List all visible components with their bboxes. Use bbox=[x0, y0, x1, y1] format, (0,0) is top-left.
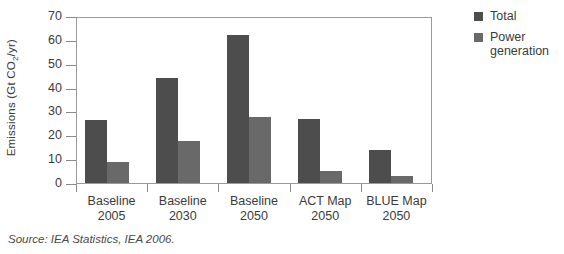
chart-legend: TotalPowergeneration bbox=[474, 9, 562, 65]
category-label-line1: BLUE Map bbox=[361, 194, 432, 209]
x-axis-tick bbox=[147, 184, 148, 192]
category-label-line1: Baseline bbox=[218, 194, 289, 209]
legend-swatch-icon bbox=[474, 33, 483, 42]
legend-label-line1: Power bbox=[490, 30, 525, 44]
category-label-line1: ACT Map bbox=[290, 194, 361, 209]
y-axis-title-main: Emissions (Gt CO bbox=[5, 61, 17, 156]
x-axis-tick bbox=[432, 184, 433, 192]
category-label-line2: 2050 bbox=[290, 209, 361, 224]
category-label-line2: 2050 bbox=[218, 209, 289, 224]
legend-item[interactable]: Powergeneration bbox=[474, 30, 562, 58]
y-axis-title-subscript: 2 bbox=[12, 57, 21, 62]
bar-power-generation bbox=[320, 171, 342, 183]
bar-total bbox=[156, 78, 178, 183]
x-axis-tick bbox=[76, 184, 77, 192]
chart-title-clipped bbox=[130, 0, 250, 4]
x-axis-tick bbox=[361, 184, 362, 192]
bar-power-generation bbox=[249, 117, 271, 183]
chart-figure: Emissions (Gt CO2/yr) 010203040506070 Ba… bbox=[0, 0, 564, 254]
category-label-line2: 2030 bbox=[147, 209, 218, 224]
y-axis-tick-label: 30 bbox=[36, 105, 62, 117]
bar-total bbox=[227, 35, 249, 183]
y-axis-title-tail: /yr) bbox=[5, 39, 17, 56]
legend-label: Powergeneration bbox=[490, 30, 549, 58]
bar-power-generation bbox=[178, 141, 200, 183]
x-axis-tick bbox=[218, 184, 219, 192]
x-axis-tick bbox=[290, 184, 291, 192]
bar-total bbox=[85, 120, 107, 183]
x-axis-category-label: ACT Map2050 bbox=[290, 194, 361, 224]
y-axis-tick-label: 60 bbox=[36, 34, 62, 46]
x-axis-category-label: BLUE Map2050 bbox=[361, 194, 432, 224]
bar-power-generation bbox=[391, 176, 413, 183]
plot-area bbox=[76, 17, 432, 184]
legend-label: Total bbox=[490, 9, 516, 23]
bar-total bbox=[369, 150, 391, 183]
category-label-line2: 2050 bbox=[361, 209, 432, 224]
category-label-line1: Baseline bbox=[76, 194, 147, 209]
legend-label-line2: generation bbox=[490, 44, 549, 58]
y-axis-tick-label: 50 bbox=[36, 58, 62, 70]
y-axis-tick-label: 70 bbox=[36, 10, 62, 22]
x-axis-category-label: Baseline2050 bbox=[218, 194, 289, 224]
bar-power-generation bbox=[107, 162, 129, 183]
legend-swatch-icon bbox=[474, 12, 483, 21]
y-axis-title: Emissions (Gt CO2/yr) bbox=[0, 0, 26, 196]
source-note: Source: IEA Statistics, IEA 2006. bbox=[8, 233, 175, 245]
legend-item[interactable]: Total bbox=[474, 9, 562, 23]
x-axis-category-label: Baseline2030 bbox=[147, 194, 218, 224]
y-axis-tick-label: 40 bbox=[36, 82, 62, 94]
y-axis-tick-label: 10 bbox=[36, 153, 62, 165]
category-label-line1: Baseline bbox=[147, 194, 218, 209]
bar-total bbox=[298, 119, 320, 183]
category-label-line2: 2005 bbox=[76, 209, 147, 224]
y-axis-tick-label: 0 bbox=[36, 177, 62, 189]
x-axis-category-label: Baseline2005 bbox=[76, 194, 147, 224]
y-axis-tick-label: 20 bbox=[36, 129, 62, 141]
